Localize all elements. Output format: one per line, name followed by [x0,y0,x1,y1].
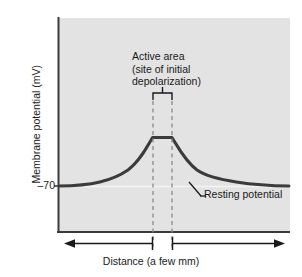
resting-potential-annotation: Resting potential [204,188,282,201]
distance-arrow-left [64,237,153,250]
active-area-annotation: Active area(site of initialdepolarizatio… [132,50,201,88]
membrane-potential-figure: Membrane potential (mV) –70 Active area(… [0,0,302,277]
x-axis-title: Distance (a few mm) [0,255,302,268]
y-axis-tick-label-minus-70: –70 [31,179,55,192]
active-area-annotation-line-3: depolarization) [132,75,201,87]
active-area-annotation-line-2: (site of initial [132,63,190,75]
figure-canvas [0,0,302,277]
active-area-annotation-line-1: Active area [132,50,185,62]
distance-arrow-right [172,237,285,250]
